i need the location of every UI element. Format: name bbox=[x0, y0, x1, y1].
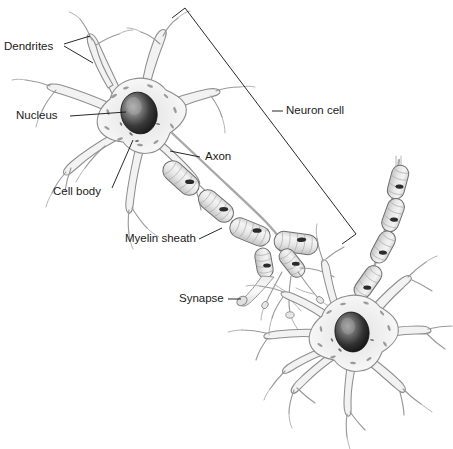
leader-myelin bbox=[199, 228, 222, 239]
synapse-bouton-4 bbox=[260, 300, 269, 310]
label-myelin-sheath: Myelin sheath bbox=[125, 232, 196, 244]
myelin-segment-5 bbox=[254, 247, 275, 279]
neuron-diagram-svg: Dendrites Nucleus Cell body Axon Myelin … bbox=[0, 0, 453, 449]
leader-dendrites-b bbox=[64, 46, 93, 63]
myelin-segment-2 bbox=[195, 186, 238, 226]
right-myelin-segment-2 bbox=[379, 196, 407, 234]
synapse-bouton-2 bbox=[286, 312, 294, 318]
leader-dendrites-a bbox=[64, 36, 90, 44]
neuron-diagram-figure: Dendrites Nucleus Cell body Axon Myelin … bbox=[0, 0, 453, 449]
neuron-cell-bracket bbox=[172, 8, 356, 244]
label-axon: Axon bbox=[205, 150, 231, 162]
label-nucleus: Nucleus bbox=[16, 109, 58, 121]
right-myelin-segment-1 bbox=[385, 163, 410, 200]
label-neuron-cell: Neuron cell bbox=[286, 104, 344, 116]
right-myelin-segment-3 bbox=[368, 228, 399, 266]
myelin-segment-4 bbox=[273, 230, 319, 256]
myelin-segment-3 bbox=[227, 215, 273, 249]
axon-myelin-chain bbox=[159, 133, 319, 281]
label-cell-body: Cell body bbox=[53, 185, 101, 197]
label-dendrites: Dendrites bbox=[4, 40, 53, 52]
label-synapse: Synapse bbox=[179, 292, 224, 304]
